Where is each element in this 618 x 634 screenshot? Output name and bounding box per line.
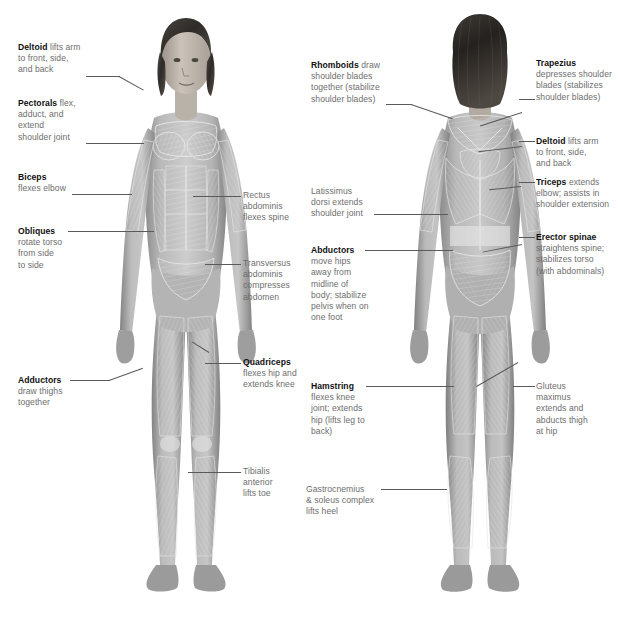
label-erector-spinae: Erector spinae straightens spine; stabil…	[536, 232, 618, 277]
leader-abductors	[365, 250, 453, 251]
leader-gastrocnemius-soleus	[381, 489, 447, 490]
leader-rectus-abdominis	[193, 196, 241, 197]
leader-latissimus-dorsi	[374, 214, 448, 215]
label-deltoid-front: Deltoid lifts arm to front, side, and ba…	[18, 42, 114, 76]
label-trapezius: Trapezius depresses shoulder blades (sta…	[536, 58, 618, 103]
label-abductors: Abductors move hips away from midline of…	[311, 245, 383, 323]
label-rhomboids: Rhomboids draw shoulder blades together …	[311, 60, 415, 105]
leader-pectorals	[86, 143, 144, 144]
leader-deltoid-front	[86, 76, 120, 77]
leader-triceps	[519, 182, 535, 183]
label-triceps: Triceps extends elbow; assists in should…	[536, 177, 618, 211]
leader-adductors	[70, 380, 110, 381]
leader-tibialis-anterior	[188, 472, 241, 473]
label-biceps: Biceps flexes elbow	[18, 172, 114, 194]
diagram-canvas: Deltoid lifts arm to front, side, and ba…	[0, 0, 618, 634]
label-hamstring: Hamstring flexes knee joint; extends hip…	[311, 381, 391, 437]
label-pectorals: Pectorals flex, adduct, and extend shoul…	[18, 98, 114, 143]
leader-erector-spinae	[519, 237, 535, 238]
label-deltoid-back: Deltoid lifts arm to front, side, and ba…	[536, 136, 618, 170]
leader-deltoid-back	[519, 141, 535, 142]
label-obliques: Obliques rotate torso from side to side	[18, 226, 114, 271]
leader-rhomboids	[386, 104, 412, 105]
leader-obliques	[68, 231, 154, 232]
leader-gluteus-maximus	[513, 386, 535, 387]
leader-transversus-abdominis	[205, 264, 241, 265]
leader-biceps	[72, 194, 132, 195]
leader-quadriceps	[205, 363, 241, 364]
leader-hamstring	[366, 386, 454, 387]
label-gluteus-maximus: Gluteus maximus extends and abducts thig…	[536, 381, 616, 437]
leader-trapezius	[519, 99, 535, 100]
